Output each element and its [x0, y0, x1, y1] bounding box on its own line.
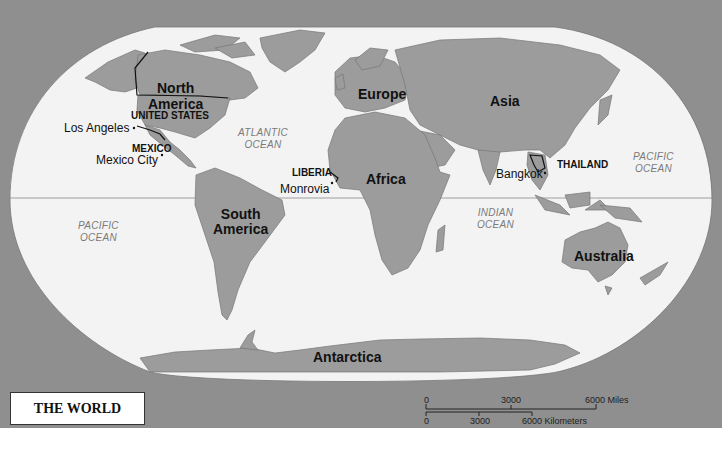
- scale-miles-6000: 6000 Miles: [585, 396, 629, 405]
- label-thailand: THAILAND: [557, 160, 608, 170]
- los-angeles-marker: [133, 127, 135, 129]
- label-south-america: South America: [213, 207, 268, 236]
- label-north-america: North America: [148, 81, 203, 111]
- label-mexico-city: Mexico City: [96, 154, 158, 166]
- label-monrovia: Monrovia: [280, 183, 329, 195]
- scale-km-3000: 3000: [470, 417, 490, 426]
- bangkok-marker: [544, 172, 546, 174]
- label-antarctica: Antarctica: [313, 350, 381, 364]
- label-africa: Africa: [366, 172, 406, 186]
- scale-km-0: 0: [424, 417, 429, 426]
- label-asia: Asia: [490, 94, 520, 108]
- label-pacific-ocean-east: PACIFIC OCEAN: [633, 151, 674, 174]
- label-atlantic-ocean: ATLANTIC OCEAN: [238, 127, 288, 150]
- label-pacific-ocean-west: PACIFIC OCEAN: [78, 220, 119, 243]
- scale-km-6000: 6000 Kilometers: [522, 417, 587, 426]
- label-indian-ocean: INDIAN OCEAN: [477, 207, 514, 230]
- monrovia-marker: [331, 182, 333, 184]
- scale-miles-0: 0: [424, 396, 429, 405]
- label-europe: Europe: [358, 87, 406, 101]
- map-title: THE WORLD: [10, 392, 145, 425]
- label-australia: Australia: [574, 249, 634, 263]
- scale-bar: [426, 404, 596, 416]
- mexico-city-marker: [161, 154, 163, 156]
- scale-miles-3000: 3000: [501, 396, 521, 405]
- label-los-angeles: Los Angeles: [64, 122, 129, 134]
- label-bangkok: Bangkok: [496, 168, 543, 180]
- label-liberia: LIBERIA: [292, 168, 332, 178]
- label-united-states: UNITED STATES: [131, 111, 209, 121]
